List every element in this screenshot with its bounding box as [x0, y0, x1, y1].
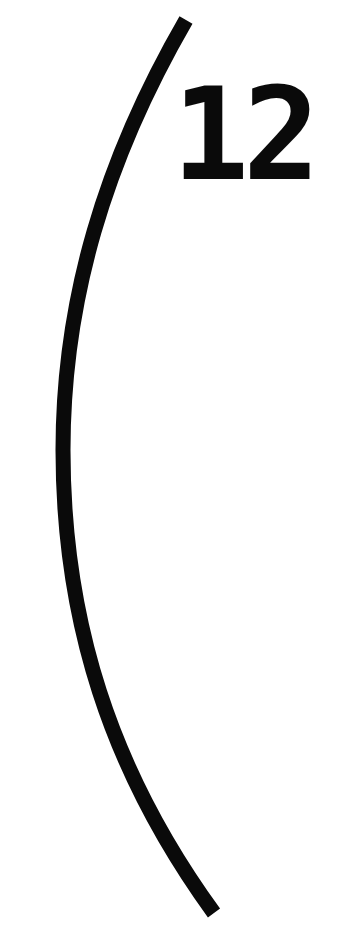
figure-number-label: 12 [172, 60, 314, 210]
figure-canvas: 12 [0, 0, 341, 930]
